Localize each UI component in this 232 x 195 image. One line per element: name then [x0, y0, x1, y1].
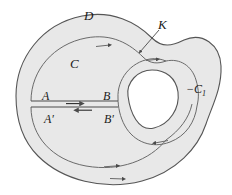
- label-point-A: A: [42, 90, 49, 102]
- prime-glyph-A: ′: [51, 112, 54, 126]
- label-point-A-prime: A′: [44, 113, 54, 125]
- label-contour-C: C: [70, 57, 79, 70]
- label-outer-boundary-K: K: [158, 18, 167, 31]
- label-contour-minus-C1-base: −C: [186, 82, 202, 96]
- label-point-B-prime: B′: [104, 113, 114, 125]
- label-contour-minus-C1: −C1: [186, 83, 206, 98]
- label-domain-D: D: [84, 9, 93, 22]
- label-contour-C1-subscript: 1: [202, 89, 206, 98]
- prime-glyph-B: ′: [111, 112, 114, 126]
- label-point-B: B: [103, 90, 110, 102]
- arrow-outer-K-bottom: [110, 179, 124, 180]
